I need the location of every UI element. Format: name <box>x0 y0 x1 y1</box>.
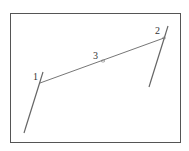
point-label-1: 1 <box>33 71 38 82</box>
point-label-3: 3 <box>93 50 98 61</box>
diagram-canvas: 1 2 3 <box>0 0 189 151</box>
point-label-2: 2 <box>155 25 160 36</box>
connector-line <box>40 38 164 83</box>
